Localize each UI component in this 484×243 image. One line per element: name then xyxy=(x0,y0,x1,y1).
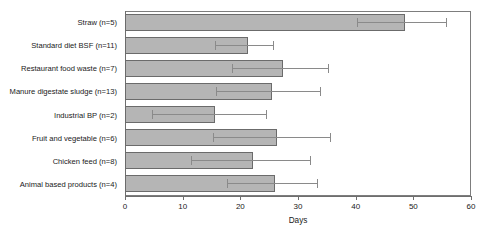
error-bar-cap-low xyxy=(213,133,214,142)
error-bar-cap-high xyxy=(330,133,331,142)
category-label: Animal based products (n=4) xyxy=(0,180,117,189)
category-axis-labels: Straw (n=5) Standard diet BSF (n=11) Res… xyxy=(0,11,121,196)
error-bar-cap-low xyxy=(232,64,233,73)
error-bar-cap-high xyxy=(320,87,321,96)
x-axis-tick xyxy=(183,196,184,200)
error-bar-line xyxy=(216,91,320,92)
x-axis-tick-label: 50 xyxy=(409,202,418,211)
category-label: Straw (n=5) xyxy=(0,18,117,27)
error-bar-cap-high xyxy=(273,41,274,50)
error-bar-line xyxy=(215,45,273,46)
error-bar-cap-low xyxy=(215,41,216,50)
error-bar-cap-low xyxy=(152,110,153,119)
x-axis-tick xyxy=(125,196,126,200)
category-label: Chicken feed (n=8) xyxy=(0,157,117,166)
error-bar-cap-high xyxy=(266,110,267,119)
bars-layer xyxy=(125,11,471,196)
error-bar-line xyxy=(227,183,317,184)
x-axis-tick-label: 40 xyxy=(351,202,360,211)
error-bar-cap-high xyxy=(328,64,329,73)
category-label: Manure digestate sludge (n=13) xyxy=(0,87,117,96)
x-axis-tick-label: 10 xyxy=(178,202,187,211)
error-bar-cap-low xyxy=(191,156,192,165)
x-axis-tick xyxy=(356,196,357,200)
error-bar-cap-high xyxy=(446,18,447,27)
x-axis-tick-label: 0 xyxy=(123,202,127,211)
error-bar-line xyxy=(232,68,328,69)
x-axis-title: Days xyxy=(125,216,471,225)
error-bar-line xyxy=(357,22,446,23)
error-bar-cap-low xyxy=(227,179,228,188)
x-axis-tick xyxy=(413,196,414,200)
x-axis-tick xyxy=(240,196,241,200)
error-bar-cap-low xyxy=(216,87,217,96)
error-bar-cap-high xyxy=(317,179,318,188)
x-axis-tick-label: 60 xyxy=(467,202,476,211)
error-bar-cap-low xyxy=(357,18,358,27)
category-label: Fruit and vegetable (n=6) xyxy=(0,134,117,143)
error-bar-cap-high xyxy=(310,156,311,165)
error-bar-line xyxy=(191,160,310,161)
category-label: Industrial BP (n=2) xyxy=(0,111,117,120)
category-label: Restaurant food waste (n=7) xyxy=(0,64,117,73)
x-axis-tick-label: 20 xyxy=(236,202,245,211)
category-label: Standard diet BSF (n=11) xyxy=(0,41,117,50)
x-axis-tick-label: 30 xyxy=(294,202,303,211)
error-bar-line xyxy=(213,137,329,138)
x-axis-tick xyxy=(298,196,299,200)
bar-chart: Straw (n=5) Standard diet BSF (n=11) Res… xyxy=(0,0,484,243)
error-bar-line xyxy=(152,114,266,115)
x-axis-tick xyxy=(471,196,472,200)
